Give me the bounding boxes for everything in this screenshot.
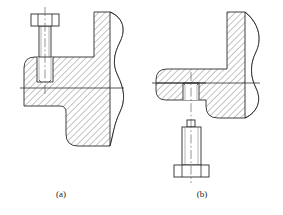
- figure-b-caption: (b): [185, 189, 219, 199]
- figure-a: [20, 7, 140, 148]
- engineering-drawing-figure: (a) (b): [0, 0, 283, 215]
- figure-b-hatch-fill: [156, 12, 245, 118]
- figure-b-break-mask: [245, 10, 276, 120]
- figure-b-bracket-body: [156, 12, 245, 118]
- drawing-canvas: [0, 0, 283, 215]
- figure-b: [152, 10, 276, 183]
- figure-a-caption: (a): [44, 189, 78, 199]
- figure-b-bolt: [174, 120, 209, 177]
- figure-b-bolt-head: [174, 165, 209, 177]
